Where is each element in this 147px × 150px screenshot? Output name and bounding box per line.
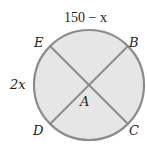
- arc-label-left: 2x: [9, 77, 26, 92]
- center-label-a: A: [79, 94, 89, 109]
- point-label-e: E: [33, 35, 44, 50]
- arc-label-top: 150 − x: [64, 10, 107, 25]
- circle-diagram: 150 − x 2x E B D C A: [0, 0, 147, 150]
- point-label-b: B: [128, 35, 139, 50]
- point-label-d: D: [32, 123, 44, 138]
- point-label-c: C: [129, 123, 139, 138]
